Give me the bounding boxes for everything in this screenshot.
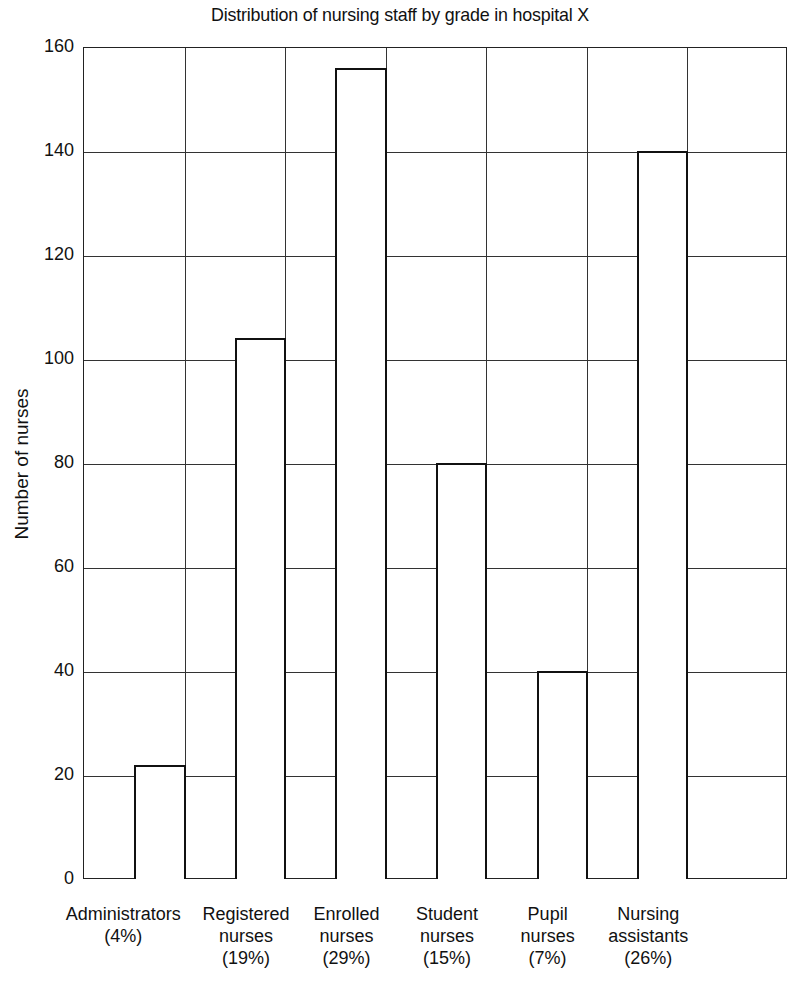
x-label-line: (15%) <box>416 947 478 969</box>
x-label-line: Student <box>416 903 478 925</box>
plot-area <box>83 47 787 879</box>
x-category-label: Administrators(4%) <box>66 903 181 947</box>
x-category-label: Studentnurses(15%) <box>416 903 478 969</box>
x-label-line: Nursing <box>608 903 688 925</box>
y-tick-label: 100 <box>14 348 74 369</box>
x-category-label: Nursingassistants(26%) <box>608 903 688 969</box>
x-label-line: (26%) <box>608 947 688 969</box>
y-tick-label: 0 <box>14 868 74 889</box>
bar-registered-nurses <box>235 338 286 879</box>
bar-nursing-assistants <box>637 151 688 879</box>
y-tick-label: 60 <box>14 556 74 577</box>
x-category-label: Registerednurses(19%) <box>202 903 289 969</box>
y-tick-label: 140 <box>14 140 74 161</box>
vertical-gridline <box>185 48 186 878</box>
chart-title: Distribution of nursing staff by grade i… <box>24 4 776 26</box>
x-label-line: (4%) <box>66 925 181 947</box>
x-label-line: (7%) <box>521 947 575 969</box>
x-label-line: (19%) <box>202 947 289 969</box>
x-label-line: Pupil <box>521 903 575 925</box>
x-label-line: nurses <box>521 925 575 947</box>
x-label-line: Registered <box>202 903 289 925</box>
x-label-line: Administrators <box>66 903 181 925</box>
x-label-line: nurses <box>416 925 478 947</box>
x-label-line: nurses <box>202 925 289 947</box>
y-tick-label: 20 <box>14 764 74 785</box>
x-category-label: Pupilnurses(7%) <box>521 903 575 969</box>
x-label-line: assistants <box>608 925 688 947</box>
y-tick-label: 40 <box>14 660 74 681</box>
x-label-line: nurses <box>313 925 379 947</box>
x-label-line: Enrolled <box>313 903 379 925</box>
bar-pupil-nurses <box>537 671 588 879</box>
bar-enrolled-nurses <box>335 68 386 879</box>
y-tick-label: 80 <box>14 452 74 473</box>
bar-administrators <box>134 765 185 879</box>
bar-student-nurses <box>436 463 487 879</box>
y-tick-label: 120 <box>14 244 74 265</box>
y-tick-label: 160 <box>14 36 74 57</box>
x-category-label: Enrollednurses(29%) <box>313 903 379 969</box>
x-label-line: (29%) <box>313 947 379 969</box>
